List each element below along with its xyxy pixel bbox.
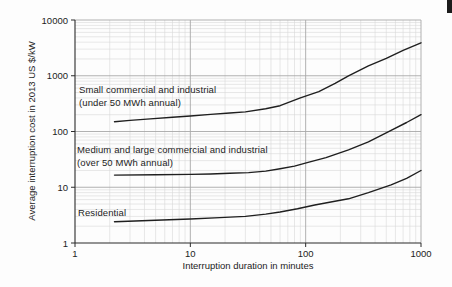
label-medium-large-commercial-industrial: Medium and large commercial and industri… (77, 144, 268, 169)
y-tick-label: 10000 (42, 15, 68, 26)
y-axis-title: Average interruption cost in 2013 US $/k… (26, 41, 37, 220)
label-medium-large-ci-line1: Medium and large commercial and industri… (77, 144, 268, 157)
y-tick-label: 1000 (47, 70, 68, 81)
y-tick-label: 10 (57, 182, 68, 193)
y-tick-label: 100 (52, 126, 68, 137)
label-residential-line1: Residential (78, 207, 126, 220)
x-tick-label: 1 (72, 248, 77, 259)
label-small-commercial-industrial: Small commercial and industrial (under 5… (79, 84, 216, 109)
figure-interruption-cost-chart: 1101001000110100100010000 Small commerci… (0, 0, 452, 287)
x-tick-label: 10 (185, 248, 196, 259)
x-axis-title: Interruption duration in minutes (75, 260, 421, 271)
page-corner-marker (447, 0, 452, 13)
x-tick-label: 1000 (410, 248, 431, 259)
label-medium-large-ci-line2: (over 50 MWh annual) (77, 157, 268, 170)
x-tick-label: 100 (298, 248, 314, 259)
label-small-ci-line2: (under 50 MWh annual) (79, 97, 216, 110)
y-tick-label: 1 (63, 238, 68, 249)
label-small-ci-line1: Small commercial and industrial (79, 84, 216, 97)
label-residential: Residential (78, 207, 126, 220)
